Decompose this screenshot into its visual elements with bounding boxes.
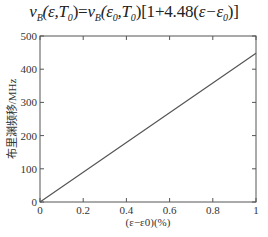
y-tick-label: 0	[32, 196, 38, 208]
x-tick-label: 0.4	[120, 204, 134, 216]
y-tick-label: 100	[21, 163, 38, 175]
y-tick-label: 400	[21, 63, 38, 75]
data-line	[40, 53, 256, 202]
x-tick-label: 0.6	[163, 204, 177, 216]
x-tick-label: 0.2	[76, 204, 90, 216]
x-axis-ticks: 00.20.40.60.81	[37, 36, 259, 216]
y-tick-label: 200	[21, 130, 38, 142]
x-tick-label: 0	[37, 204, 43, 216]
plot-frame	[40, 36, 256, 202]
y-axis-label: 布里渊频移/MHz	[5, 79, 18, 160]
x-tick-label: 1	[253, 204, 259, 216]
line-chart: 00.20.40.60.81 0100200300400500 (ε−ε0)(%…	[0, 0, 268, 237]
x-axis-label: (ε−ε0)(%)	[126, 216, 171, 229]
x-tick-label: 0.8	[206, 204, 220, 216]
y-axis-ticks: 0100200300400500	[21, 30, 257, 208]
y-tick-label: 500	[21, 30, 38, 42]
y-tick-label: 300	[21, 96, 38, 108]
